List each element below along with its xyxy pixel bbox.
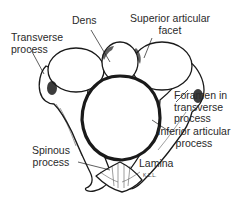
artist-signature: K.Z.L. — [143, 172, 156, 178]
label-spinous-process: Spinous process — [28, 145, 74, 168]
label-dens: Dens — [72, 15, 97, 27]
label-inferior-articular-process: Inferior articular process — [150, 126, 238, 149]
label-transverse-process: Transverse process — [11, 32, 63, 55]
label-superior-articular-facet: Superior articular facet — [123, 13, 217, 36]
label-foramen-in-transverse-process: Foramen in transverse process — [174, 90, 227, 125]
label-lamina: Lamina — [139, 158, 173, 170]
vertebra-diagram: Dens Transverse process Superior articul… — [0, 0, 239, 206]
